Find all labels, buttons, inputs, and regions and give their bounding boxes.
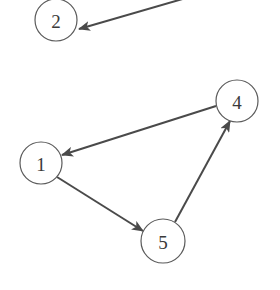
node-label: 5 <box>158 232 168 253</box>
node-1: 1 <box>20 142 62 184</box>
node-5: 5 <box>141 219 185 263</box>
node-label: 2 <box>51 11 61 32</box>
node-label: 1 <box>36 154 46 175</box>
node-label: 4 <box>232 92 242 113</box>
edge-offscreen-to-2 <box>79 0 186 29</box>
edge-1-to-5 <box>57 177 143 231</box>
node-4: 4 <box>216 80 258 122</box>
edge-5-to-4 <box>175 121 230 222</box>
node-2: 2 <box>35 0 77 41</box>
graph-diagram: 2 4 1 5 <box>0 0 280 290</box>
edge-4-to-1 <box>62 106 216 155</box>
graph-svg: 2 4 1 5 <box>0 0 280 290</box>
